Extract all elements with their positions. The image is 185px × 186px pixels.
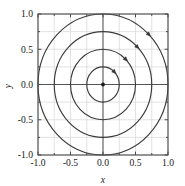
center-fixed-point [101, 83, 105, 87]
y-tick-label: 1.0 [21, 8, 33, 19]
y-tick-label: -1.0 [18, 149, 33, 160]
chart-figure: -1.0-0.50.00.51.0 -1.0-0.50.00.51.0 x y [0, 0, 185, 186]
phase-portrait-plot: -1.0-0.50.00.51.0 -1.0-0.50.00.51.0 x y [0, 0, 185, 186]
x-tick-label: -0.5 [63, 157, 78, 168]
y-tick-label: 0.0 [21, 79, 33, 90]
x-axis-title: x [100, 174, 106, 185]
x-tick-label: 1.0 [162, 157, 174, 168]
x-axis-tick-labels: -1.0-0.50.00.51.0 [30, 157, 174, 168]
y-axis-title: y [2, 83, 13, 89]
fixed-point-markers [101, 83, 105, 87]
y-tick-label: 0.5 [21, 44, 33, 55]
x-tick-label: 0.5 [130, 157, 142, 168]
x-tick-label: 0.0 [97, 157, 109, 168]
y-axis-tick-labels: -1.0-0.50.00.51.0 [18, 8, 33, 160]
y-tick-label: -0.5 [18, 114, 33, 125]
